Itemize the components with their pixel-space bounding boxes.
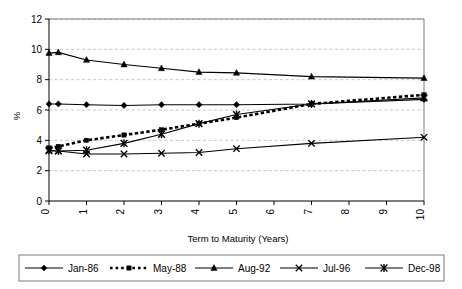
x-axis-title: Term to Maturity (Years) [187, 233, 288, 244]
x-tick-label-9: 9 [378, 209, 389, 215]
yield-curve-chart: 024681012 012345678910 % Term to Maturit… [0, 0, 462, 289]
x-tick-label-1: 1 [78, 209, 89, 215]
y-tick-label-2: 2 [36, 165, 42, 176]
x-tick-label-7: 7 [303, 209, 314, 215]
marker-square [84, 138, 88, 142]
x-tick-label-8: 8 [340, 209, 351, 215]
x-tick-label-2: 2 [115, 209, 126, 215]
legend-label-aug-92: Aug-92 [238, 263, 271, 274]
chart-canvas: 024681012 012345678910 % Term to Maturit… [0, 0, 462, 289]
legend-label-dec-98: Dec-98 [408, 263, 441, 274]
y-tick-label-4: 4 [36, 135, 42, 146]
chart-legend: Jan-86May-88Aug-92Jul-96Dec-98 [19, 255, 444, 281]
y-tick-label-10: 10 [31, 44, 43, 55]
y-axis-title: % [11, 111, 22, 120]
legend-label-may-88: May-88 [153, 263, 187, 274]
legend-label-jul-96: Jul-96 [323, 263, 351, 274]
y-tick-label-6: 6 [36, 105, 42, 116]
x-tick-label-5: 5 [228, 209, 239, 215]
y-tick-label-8: 8 [36, 74, 42, 85]
marker-square [122, 133, 126, 137]
x-tick-label-3: 3 [153, 209, 164, 215]
y-tick-label-12: 12 [31, 14, 43, 25]
x-tick-label-4: 4 [190, 209, 201, 215]
x-tick-label-0: 0 [40, 209, 51, 215]
y-tick-label-0: 0 [36, 196, 42, 207]
legend-label-jan-86: Jan-86 [68, 263, 99, 274]
x-tick-label-10: 10 [415, 209, 426, 221]
marker-square [127, 266, 131, 270]
x-tick-label-6: 6 [265, 209, 276, 215]
